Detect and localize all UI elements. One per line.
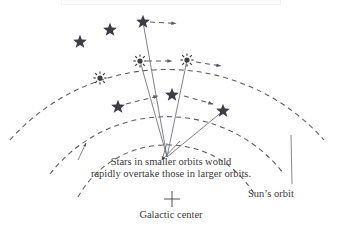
star-marker xyxy=(103,23,117,36)
sun-orbit-label: Sun’s orbit xyxy=(248,188,324,200)
sun-marker xyxy=(180,53,193,66)
galactic-center-label: Galactic center xyxy=(0,209,342,221)
middle-orbit-stars xyxy=(93,53,193,84)
caption-block: Stars in smaller orbits would rapidly ov… xyxy=(0,156,342,181)
sun-marker xyxy=(133,54,146,67)
caption-line-2: rapidly overtake those in larger orbits. xyxy=(0,168,342,180)
star-marker xyxy=(136,15,150,28)
galactic-center-marker xyxy=(164,191,180,207)
sun-marker xyxy=(93,71,106,84)
outer-orbit-arc xyxy=(10,22,324,140)
inner-orbit-arc xyxy=(78,96,256,197)
caption-line-1: Stars in smaller orbits would xyxy=(0,156,342,168)
radial-lines-from-center xyxy=(140,22,223,157)
orbit-diagram-figure: Stars in smaller orbits would rapidly ov… xyxy=(0,0,342,226)
inner-orbit-stars xyxy=(111,88,230,117)
outer-orbit-stars xyxy=(73,15,150,48)
star-marker xyxy=(165,88,179,101)
star-marker xyxy=(111,100,125,113)
star-marker xyxy=(73,35,87,48)
